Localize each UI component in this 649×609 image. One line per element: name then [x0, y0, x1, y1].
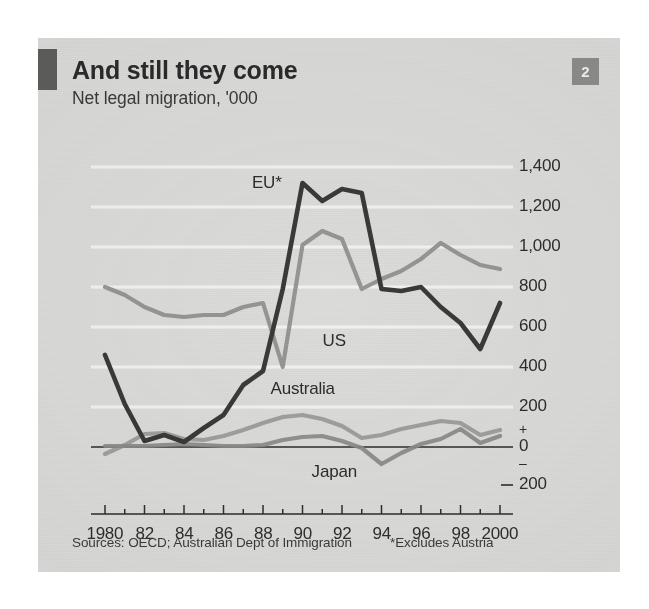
y-axis-tick-label: 200	[519, 474, 547, 494]
x-axis-group	[91, 505, 513, 514]
y-axis-minus-sign: –	[519, 455, 527, 471]
y-axis-tick-label: 400	[519, 356, 547, 376]
series-label-eu: EU*	[252, 173, 282, 193]
series-lines-group	[105, 183, 500, 464]
y-axis-tick-label: 200	[519, 396, 547, 416]
series-line-eu	[105, 183, 500, 442]
y-axis-plus-sign: +	[519, 421, 527, 437]
gridlines-group	[91, 167, 513, 407]
y-axis-tick-label: 1,200	[519, 196, 561, 216]
plot-area: 1,4001,2001,0008006004002000200+– 198082…	[38, 38, 620, 572]
y-axis-tick-label: 600	[519, 316, 547, 336]
y-axis-tick-label: 1,000	[519, 236, 561, 256]
y-axis-tick-label: 0	[519, 436, 528, 456]
x-axis-tick-label: 94	[373, 524, 391, 544]
footnote: *Excludes Austria	[390, 535, 493, 550]
series-label-japan: Japan	[312, 462, 357, 482]
zero-baseline	[91, 447, 513, 485]
series-line-us	[105, 231, 500, 367]
y-axis-tick-label: 1,400	[519, 156, 561, 176]
series-label-us: US	[323, 331, 346, 351]
series-label-australia: Australia	[271, 379, 335, 399]
source-note: Sources: OECD; Australian Dept of Immigr…	[72, 535, 352, 550]
chart-card: And still they come Net legal migration,…	[38, 38, 620, 572]
y-axis-tick-label: 800	[519, 276, 547, 296]
